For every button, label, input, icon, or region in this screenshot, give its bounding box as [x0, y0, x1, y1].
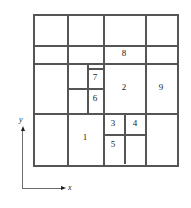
- grid-line-horizontal: [87, 68, 103, 70]
- region-label-5: 5: [106, 140, 120, 149]
- region-label-2: 2: [117, 83, 131, 92]
- grid-line-vertical: [33, 14, 35, 167]
- region-label-1: 1: [78, 133, 92, 142]
- grid-line-horizontal: [67, 88, 103, 90]
- x-axis-line: [22, 188, 62, 189]
- region-label-8: 8: [117, 49, 131, 58]
- grid-line-vertical: [145, 14, 147, 167]
- grid-line-horizontal: [33, 14, 177, 16]
- grid-line-horizontal: [103, 45, 145, 47]
- arrow-up-icon: [21, 126, 25, 131]
- grid-line-horizontal: [33, 63, 177, 65]
- x-axis-label: x: [68, 184, 72, 192]
- region-label-4: 4: [128, 119, 142, 128]
- grid-line-horizontal: [33, 113, 177, 115]
- partitioned-rectangle-figure: 123456789 y x: [0, 0, 191, 208]
- grid-line-horizontal: [33, 165, 177, 167]
- region-label-7: 7: [88, 73, 102, 82]
- region-label-3: 3: [106, 119, 120, 128]
- y-axis-label: y: [19, 116, 23, 124]
- grid-line-vertical: [124, 113, 126, 164]
- region-label-6: 6: [88, 94, 102, 103]
- grid-line-vertical: [177, 14, 179, 167]
- grid-line-vertical: [87, 63, 89, 115]
- y-axis-line: [22, 130, 23, 188]
- grid-line-vertical: [103, 14, 105, 167]
- region-label-9: 9: [154, 83, 168, 92]
- grid-line-vertical: [67, 14, 69, 167]
- arrow-right-icon: [61, 186, 66, 190]
